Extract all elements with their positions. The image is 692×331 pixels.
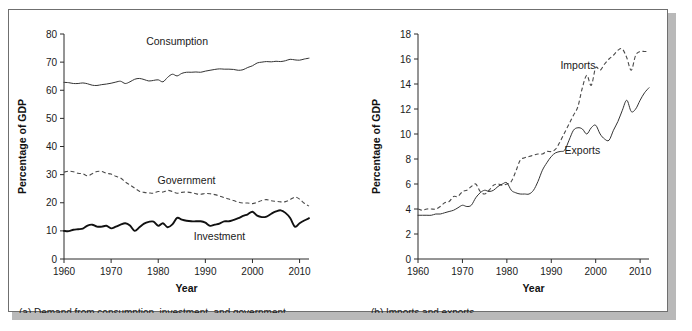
y-tick-label: 50: [46, 113, 58, 124]
y-tick-label: 4: [405, 204, 411, 215]
y-tick-label: 18: [400, 29, 412, 40]
x-tick-label: 1960: [407, 266, 430, 277]
series-label-imports: Imports: [560, 59, 595, 71]
series-line-consumption: [64, 58, 309, 85]
y-axis-title: Percentage of GDP: [16, 99, 28, 194]
y-tick-label: 12: [400, 104, 412, 115]
y-tick-label: 80: [46, 29, 58, 40]
x-tick-label: 2000: [241, 266, 264, 277]
y-tick-label: 60: [46, 85, 58, 96]
chart-panel-b: 024681012141618196019701980199020002010I…: [361, 10, 669, 313]
figure-root: 0102030405060708019601970198019902000201…: [0, 0, 692, 331]
x-tick-label: 1980: [147, 266, 170, 277]
series-label-exports: Exports: [565, 144, 601, 156]
y-tick-label: 16: [400, 54, 412, 65]
panel-caption: (b) Imports and exports: [371, 307, 474, 313]
series-label-government: Government: [158, 174, 216, 186]
y-axis-title: Percentage of GDP: [370, 99, 382, 194]
y-tick-label: 10: [46, 225, 58, 236]
x-tick-label: 1960: [53, 266, 76, 277]
x-tick-label: 2010: [629, 266, 652, 277]
series-line-investment: [64, 210, 309, 231]
series-label-investment: Investment: [194, 230, 245, 242]
y-tick-label: 40: [46, 141, 58, 152]
x-tick-label: 1970: [451, 266, 474, 277]
series-line-exports: [418, 88, 649, 216]
x-tick-label: 1980: [496, 266, 519, 277]
x-tick-label: 1970: [100, 266, 123, 277]
chart-panel-a: 0102030405060708019601970198019902000201…: [9, 10, 361, 313]
y-tick-label: 14: [400, 79, 412, 90]
y-tick-label: 20: [46, 197, 58, 208]
y-tick-label: 2: [405, 229, 411, 240]
series-label-consumption: Consumption: [146, 35, 208, 47]
chart-b-svg: 024681012141618196019701980199020002010I…: [361, 10, 669, 313]
x-tick-label: 1990: [194, 266, 217, 277]
y-tick-label: 30: [46, 169, 58, 180]
chart-a-svg: 0102030405060708019601970198019902000201…: [9, 10, 361, 313]
y-tick-label: 70: [46, 57, 58, 68]
x-tick-label: 2000: [585, 266, 608, 277]
y-tick-label: 6: [405, 179, 411, 190]
x-tick-label: 1990: [540, 266, 563, 277]
x-tick-label: 2010: [288, 266, 311, 277]
figure-frame: 0102030405060708019601970198019902000201…: [8, 9, 668, 312]
panel-caption: (a) Demand from consumption, investment,…: [19, 307, 286, 313]
y-tick-label: 0: [51, 254, 57, 265]
y-tick-label: 0: [405, 254, 411, 265]
y-tick-label: 8: [405, 154, 411, 165]
y-tick-label: 10: [400, 129, 412, 140]
x-axis-title: Year: [175, 282, 197, 294]
x-axis-title: Year: [522, 282, 544, 294]
